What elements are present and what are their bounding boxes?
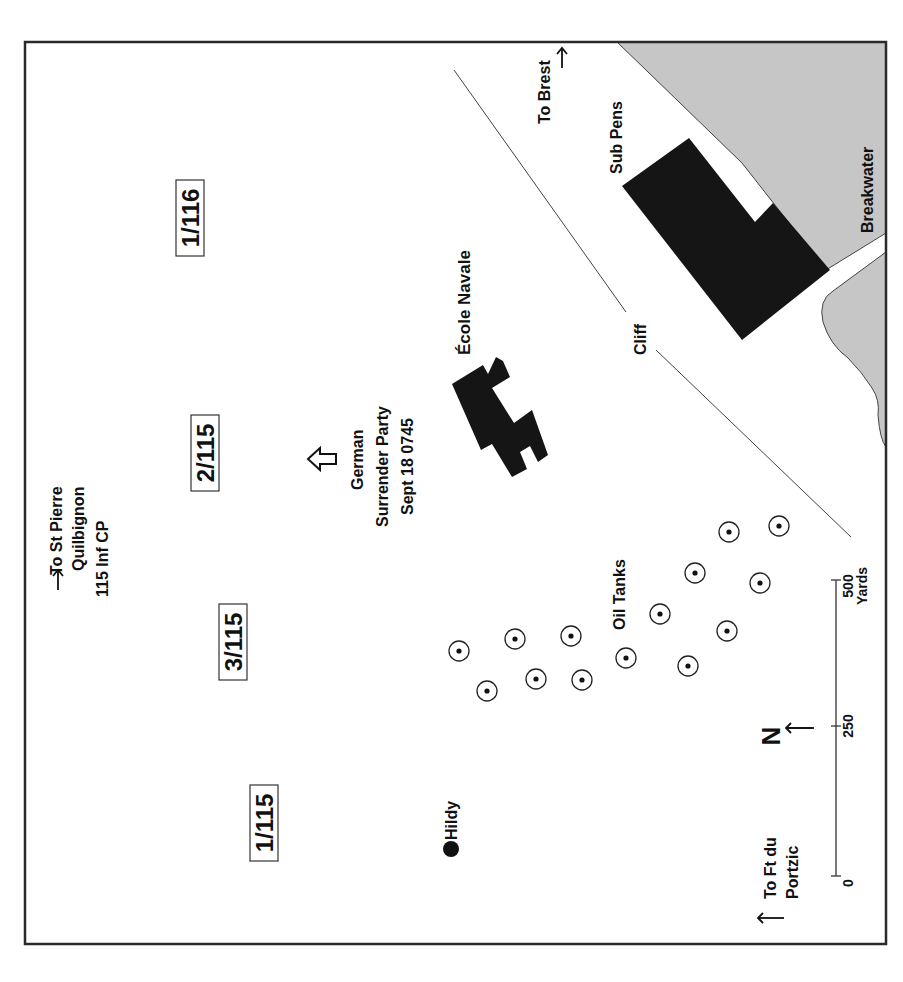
oil-tank[interactable]: [561, 626, 581, 646]
cliff-line-lower: [656, 350, 851, 537]
st-pierre-line1: To St Pierre: [48, 486, 65, 575]
surrender-line3: Sept 18 0745: [399, 418, 416, 515]
oil-tank[interactable]: [719, 522, 739, 542]
surrender-arrow-icon: [308, 448, 336, 470]
unit-1-115-label: 1/115: [251, 794, 278, 853]
hildy-label: Hildy: [443, 801, 460, 840]
unit-3-115-label: 3/115: [220, 613, 247, 672]
water-roadstead: [822, 252, 886, 447]
portzic-arrow-icon: [758, 913, 784, 923]
oil-tank[interactable]: [572, 670, 592, 690]
oil-tank[interactable]: [750, 573, 770, 593]
map-canvas: 1/116 2/115 3/115 1/115 To St Pierre Qui…: [0, 0, 903, 982]
st-pierre-line3: 115 Inf CP: [94, 520, 111, 597]
cliff-label: Cliff: [632, 323, 649, 355]
ecole-navale-building: [452, 357, 548, 477]
ecole-navale-label: École Navale: [455, 250, 474, 355]
oil-tank[interactable]: [526, 669, 546, 689]
unit-2-115[interactable]: 2/115: [191, 415, 219, 491]
surrender-line1: German: [349, 430, 366, 490]
oil-tank[interactable]: [449, 641, 469, 661]
portzic-line2: Portzic: [784, 846, 801, 899]
scale-250-label: 250: [840, 714, 856, 738]
oil-tank[interactable]: [678, 656, 698, 676]
portzic-line1: To Ft du: [762, 837, 779, 899]
oil-tank[interactable]: [717, 621, 737, 641]
hildy-marker-icon[interactable]: [443, 841, 459, 857]
oil-tank[interactable]: [505, 629, 525, 649]
unit-1-116[interactable]: 1/116: [176, 180, 204, 256]
oil-tank[interactable]: [769, 516, 789, 536]
unit-1-115[interactable]: 1/115: [250, 785, 278, 861]
north-arrow-icon: [786, 723, 814, 733]
oil-tank[interactable]: [685, 563, 705, 583]
scale-0-label: 0: [840, 879, 856, 887]
sub-pens-label: Sub Pens: [608, 101, 625, 174]
scale-unit-label: Yards: [854, 567, 870, 605]
oil-tank[interactable]: [477, 681, 497, 701]
to-brest-label: To Brest: [536, 60, 553, 124]
st-pierre-line2: Quilbignon: [70, 487, 87, 571]
north-label: N: [756, 727, 786, 746]
breakwater-label: Breakwater: [859, 147, 876, 233]
unit-1-116-label: 1/116: [177, 189, 204, 248]
unit-2-115-label: 2/115: [192, 424, 219, 483]
oil-tank[interactable]: [650, 604, 670, 624]
oil-tanks-label: Oil Tanks: [611, 559, 628, 630]
surrender-line2: Surrender Party: [374, 406, 391, 527]
oil-tank[interactable]: [616, 648, 636, 668]
unit-3-115[interactable]: 3/115: [219, 604, 247, 680]
brest-arrow-icon: [557, 48, 567, 68]
